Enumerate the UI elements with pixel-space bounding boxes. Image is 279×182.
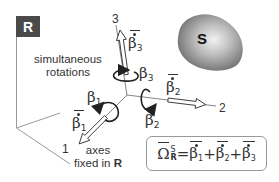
axes-caption-line-1: axes bbox=[68, 144, 128, 157]
equals-sign: = bbox=[177, 145, 190, 163]
frame-line-up bbox=[17, 113, 61, 128]
axis-1-label: 1 bbox=[62, 143, 69, 155]
plus-sign-1: + bbox=[203, 145, 216, 163]
beta1-dot-label: β1 bbox=[72, 116, 86, 133]
rotation-arrow-2-icon bbox=[141, 89, 153, 110]
axes-caption-line-2: fixed in R bbox=[68, 157, 128, 170]
axis-2-arrow-icon bbox=[167, 95, 206, 110]
formula-term-1: β1 bbox=[189, 144, 203, 163]
plus-sign-2: + bbox=[229, 145, 242, 163]
beta3-label: β3 bbox=[139, 66, 153, 83]
formula-term-3: β3 bbox=[242, 144, 256, 163]
reference-frame-label: R bbox=[16, 16, 40, 37]
axis-2-label: 2 bbox=[219, 102, 226, 114]
beta2-label: β2 bbox=[145, 113, 159, 130]
body-label: S bbox=[197, 30, 207, 47]
omega-term: Ω bbox=[157, 145, 169, 163]
axis-3-label: 3 bbox=[112, 13, 119, 25]
caption-line-1: simultaneous bbox=[28, 53, 108, 66]
body-s-shape bbox=[178, 14, 243, 70]
simultaneous-rotations-caption: simultaneous rotations bbox=[28, 53, 108, 79]
beta3-dot-label: β3 bbox=[128, 36, 142, 53]
angular-velocity-formula: ΩSR = β1 + β2 + β3 bbox=[147, 137, 266, 170]
caption-line-2: rotations bbox=[28, 66, 108, 79]
axes-fixed-caption: axes fixed in R bbox=[68, 144, 128, 170]
beta2-dot-label: β2 bbox=[166, 80, 180, 97]
beta1-label: β1 bbox=[87, 90, 101, 107]
formula-term-2: β2 bbox=[216, 144, 230, 163]
angular-velocity-formula-box: ΩSR = β1 + β2 + β3 bbox=[146, 136, 267, 171]
rotation-diagram: R S simultaneous rotations axes fixed in… bbox=[0, 0, 279, 182]
